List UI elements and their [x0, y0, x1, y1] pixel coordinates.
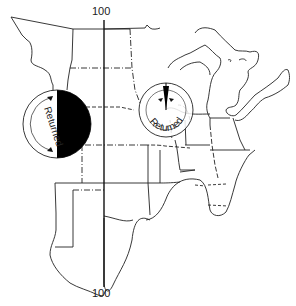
meridian-label-top: 100: [92, 5, 110, 17]
map-outline: [11, 17, 160, 93]
map-svg: Returned Returned: [0, 0, 296, 306]
eastern-pie: Returned: [139, 83, 193, 137]
meridian-label-bottom: 100: [92, 287, 110, 299]
map-figure: Returned Returned 100 100: [0, 0, 296, 306]
western-pie: Returned: [23, 90, 91, 158]
